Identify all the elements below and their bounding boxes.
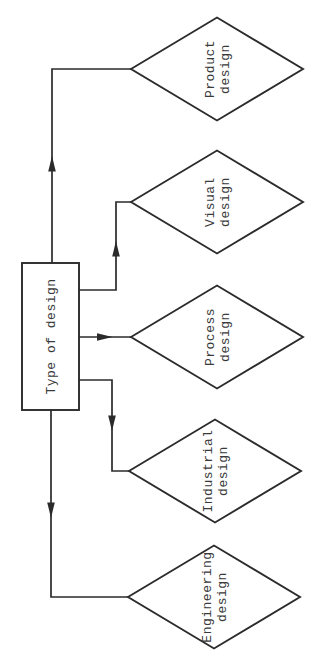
node-process-design: Process design bbox=[131, 286, 303, 389]
process-design-label-line1: Process bbox=[203, 308, 218, 366]
connector-root-to-industrial bbox=[79, 380, 129, 471]
visual-design-label-line1: Visual bbox=[203, 177, 218, 227]
node-industrial-design: Industrial design bbox=[129, 420, 301, 523]
engineering-design-label-line1: Engineering bbox=[200, 551, 215, 642]
product-design-label-line1: Product bbox=[203, 40, 218, 98]
arrowhead-down-icon bbox=[47, 503, 55, 519]
arrowhead-up-icon bbox=[112, 241, 120, 257]
flowchart-canvas: Type of design Product design Visual des… bbox=[0, 0, 318, 668]
arrowhead-up-icon bbox=[48, 156, 56, 172]
process-design-label-line2: design bbox=[218, 312, 233, 362]
arrowhead-down-icon bbox=[108, 416, 116, 432]
node-product-design: Product design bbox=[131, 18, 303, 121]
node-visual-design: Visual design bbox=[131, 151, 303, 254]
engineering-design-label-line2: design bbox=[215, 572, 230, 622]
product-design-label-line2: design bbox=[218, 44, 233, 94]
flowchart-diagram: Type of design Product design Visual des… bbox=[0, 0, 318, 668]
root-node-label: Type of design bbox=[44, 278, 59, 394]
industrial-design-label-line2: design bbox=[216, 446, 231, 496]
connector-root-to-engineering bbox=[51, 410, 128, 597]
root-node: Type of design bbox=[22, 263, 79, 410]
arrowhead-right-icon bbox=[97, 333, 113, 341]
visual-design-label-line2: design bbox=[218, 177, 233, 227]
connector-root-to-visual bbox=[79, 202, 131, 290]
industrial-design-label-line1: Industrial bbox=[201, 429, 216, 512]
node-engineering-design: Engineering design bbox=[128, 546, 300, 649]
connector-root-to-product bbox=[52, 69, 131, 263]
